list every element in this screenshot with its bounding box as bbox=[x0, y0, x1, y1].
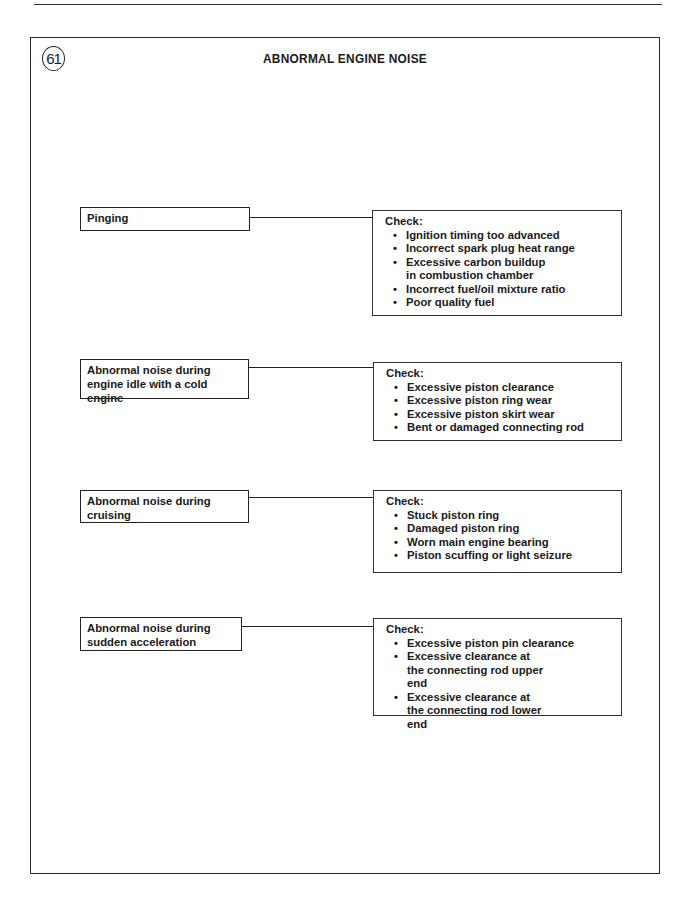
symptom-label: Abnormal noise during sudden acceleratio… bbox=[87, 621, 217, 649]
check-box-cruising: Check: Stuck piston ring Damaged piston … bbox=[373, 490, 622, 573]
connector-line bbox=[250, 217, 373, 218]
check-box-cold-idle: Check: Excessive piston clearance Excess… bbox=[373, 362, 622, 441]
check-box-pinging: Check: Ignition timing too advanced Inco… bbox=[372, 210, 622, 316]
check-item: Excessive piston ring wear bbox=[394, 394, 609, 408]
check-item: Poor quality fuel bbox=[393, 296, 609, 310]
check-list: Excessive piston clearance Excessive pis… bbox=[386, 381, 609, 435]
symptom-box-cruising: Abnormal noise during cruising bbox=[80, 490, 249, 523]
symptom-box-pinging: Pinging bbox=[80, 207, 250, 231]
check-item: Excessive piston pin clearance bbox=[394, 637, 609, 651]
check-item: Excessive piston clearance bbox=[394, 381, 609, 395]
check-heading: Check: bbox=[386, 367, 609, 381]
connector-line bbox=[249, 497, 373, 498]
connector-line bbox=[242, 626, 373, 627]
check-item: Excessive clearance at the connecting ro… bbox=[394, 650, 547, 691]
check-item: Piston scuffing or light seizure bbox=[394, 549, 609, 563]
check-item: Excessive clearance at the connecting ro… bbox=[394, 691, 547, 732]
check-heading: Check: bbox=[386, 495, 609, 509]
symptom-box-acceleration: Abnormal noise during sudden acceleratio… bbox=[80, 617, 242, 651]
check-list: Ignition timing too advanced Incorrect s… bbox=[385, 229, 609, 310]
check-item: Ignition timing too advanced bbox=[393, 229, 609, 243]
symptom-label: Abnormal noise during cruising bbox=[87, 494, 217, 522]
check-item: Excessive piston skirt wear bbox=[394, 408, 609, 422]
check-heading: Check: bbox=[386, 623, 609, 637]
page-title: ABNORMAL ENGINE NOISE bbox=[17, 52, 673, 66]
check-item: Stuck piston ring bbox=[394, 509, 609, 523]
check-heading: Check: bbox=[385, 215, 609, 229]
symptom-label: Pinging bbox=[87, 212, 128, 224]
check-list: Stuck piston ring Damaged piston ring Wo… bbox=[386, 509, 609, 563]
check-item: Worn main engine bearing bbox=[394, 536, 609, 550]
check-list: Excessive piston pin clearance Excessive… bbox=[386, 637, 609, 732]
check-item: Excessive carbon buildup in combustion c… bbox=[393, 256, 546, 283]
check-item: Incorrect spark plug heat range bbox=[393, 242, 609, 256]
symptom-label: Abnormal noise during engine idle with a… bbox=[87, 363, 247, 405]
check-box-acceleration: Check: Excessive piston pin clearance Ex… bbox=[373, 618, 622, 716]
check-item: Bent or damaged connecting rod bbox=[394, 421, 609, 435]
symptom-box-cold-idle: Abnormal noise during engine idle with a… bbox=[80, 359, 249, 399]
connector-line bbox=[249, 367, 373, 368]
check-item: Incorrect fuel/oil mixture ratio bbox=[393, 283, 609, 297]
figure-frame bbox=[30, 37, 660, 874]
page-top-rule bbox=[34, 4, 662, 5]
check-item: Damaged piston ring bbox=[394, 522, 609, 536]
